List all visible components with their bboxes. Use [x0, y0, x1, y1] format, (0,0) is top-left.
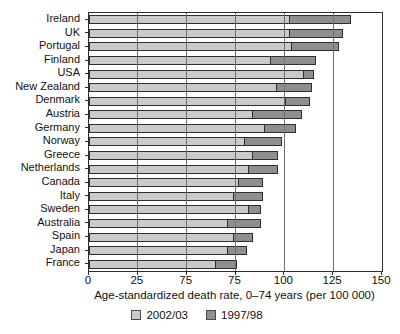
bar-1997-98	[233, 233, 253, 242]
bar-1997-98	[252, 110, 302, 119]
country-label: Ireland	[0, 12, 84, 26]
bar-1997-98	[289, 29, 343, 38]
bar-1997-98	[270, 56, 316, 65]
country-label: Spain	[0, 229, 84, 243]
bar-1997-98	[276, 83, 312, 92]
bar-2002-03	[89, 151, 253, 160]
country-label: UK	[0, 26, 84, 40]
country-label: USA	[0, 66, 84, 80]
country-label: Sweden	[0, 202, 84, 216]
country-label: Japan	[0, 243, 84, 257]
bar-2002-03	[89, 178, 239, 187]
legend-swatch-icon	[131, 310, 141, 320]
bar-2002-03	[89, 205, 249, 214]
bar-1997-98	[248, 205, 261, 214]
bar-1997-98	[248, 165, 278, 174]
country-label: New Zealand	[0, 80, 84, 94]
country-label: Greece	[0, 148, 84, 162]
x-tick-label: 0	[70, 274, 106, 286]
bar-2002-03	[89, 70, 304, 79]
bar-1997-98	[233, 192, 263, 201]
bar-2002-03	[89, 42, 292, 51]
bar-2002-03	[89, 246, 228, 255]
bar-2002-03	[89, 15, 290, 24]
bar-2002-03	[89, 29, 290, 38]
bar-2002-03	[89, 137, 245, 146]
legend-label: 2002/03	[146, 309, 188, 321]
x-axis-title: Age-standardized death rate, 0–74 years …	[88, 289, 381, 301]
country-label: Austria	[0, 107, 84, 121]
country-label: Italy	[0, 189, 84, 203]
country-label: Finland	[0, 53, 84, 67]
bar-2002-03	[89, 165, 249, 174]
gridline-50	[186, 13, 187, 271]
legend-swatch-icon	[206, 310, 216, 320]
gridline-125	[333, 13, 334, 271]
x-tick-label: 125	[314, 274, 350, 286]
x-tick-label: 75	[217, 274, 253, 286]
country-label: France	[0, 256, 84, 270]
bar-1997-98	[244, 137, 282, 146]
bar-1997-98	[264, 124, 296, 133]
bar-2002-03	[89, 97, 286, 106]
bar-2002-03	[89, 110, 253, 119]
bar-1997-98	[238, 178, 263, 187]
legend-label: 1997/98	[221, 309, 263, 321]
bar-2002-03	[89, 83, 277, 92]
bar-1997-98	[252, 151, 278, 160]
plot-area	[88, 12, 383, 272]
bar-1997-98	[227, 246, 247, 255]
x-tick-label: 75	[168, 274, 204, 286]
bar-1997-98	[227, 219, 261, 228]
gridline-100	[284, 13, 285, 271]
bar-2002-03	[89, 192, 234, 201]
legend: 2002/031997/98	[0, 309, 394, 321]
country-label: Germany	[0, 121, 84, 135]
legend-item: 1997/98	[206, 309, 263, 321]
x-tick-label: 25	[119, 274, 155, 286]
country-label: Portugal	[0, 39, 84, 53]
bar-1997-98	[215, 260, 237, 269]
bar-2002-03	[89, 56, 271, 65]
country-label: Netherlands	[0, 161, 84, 175]
country-label: Australia	[0, 216, 84, 230]
x-tick-label: 150	[363, 274, 399, 286]
country-label: Norway	[0, 134, 84, 148]
chart-figure: IrelandUKPortugalFinlandUSANew ZealandDe…	[0, 0, 400, 334]
bar-2002-03	[89, 124, 265, 133]
bar-2002-03	[89, 260, 216, 269]
bar-1997-98	[285, 97, 310, 106]
bar-1997-98	[303, 70, 314, 79]
bar-2002-03	[89, 233, 234, 242]
bar-1997-98	[289, 15, 351, 24]
bar-2002-03	[89, 219, 228, 228]
gridline-75	[235, 13, 236, 271]
country-label: Canada	[0, 175, 84, 189]
legend-item: 2002/03	[131, 309, 188, 321]
x-tick-label: 100	[265, 274, 301, 286]
gridline-25	[137, 13, 138, 271]
country-label: Denmark	[0, 93, 84, 107]
